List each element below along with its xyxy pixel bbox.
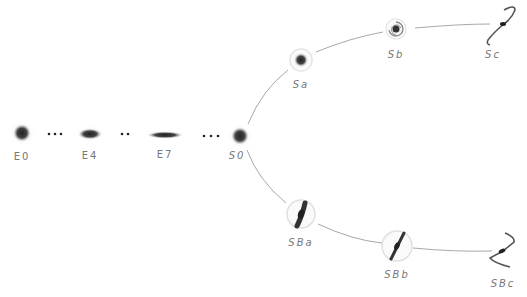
separator-dots-3 <box>203 135 220 138</box>
galaxy-sa <box>288 47 314 73</box>
label-sc: Sc <box>485 49 501 60</box>
galaxy-sb <box>384 17 408 41</box>
label-e4: E4 <box>82 150 99 161</box>
galaxy-sbb <box>382 231 412 261</box>
label-sbb: SBb <box>384 269 410 280</box>
label-e7: E7 <box>157 149 174 160</box>
label-sbc: SBc <box>491 278 516 289</box>
label-sba: SBa <box>288 237 313 248</box>
spiral-branch-line <box>248 24 490 124</box>
separator-dots-1 <box>48 133 63 136</box>
galaxy-sbc <box>490 233 514 267</box>
label-s0: S0 <box>229 150 246 161</box>
label-e0: E0 <box>14 151 31 162</box>
galaxy-e4 <box>74 125 106 143</box>
galaxy-sc <box>487 7 515 45</box>
tuning-fork-diagram <box>0 0 527 297</box>
galaxy-e0 <box>8 119 36 147</box>
galaxy-s0 <box>226 122 254 150</box>
separator-dots-2 <box>121 133 130 136</box>
label-sa: Sa <box>293 79 309 90</box>
label-sb: Sb <box>388 49 405 60</box>
barred-branch-line <box>247 150 492 251</box>
galaxy-e7 <box>143 129 187 141</box>
galaxy-sba <box>287 200 315 228</box>
